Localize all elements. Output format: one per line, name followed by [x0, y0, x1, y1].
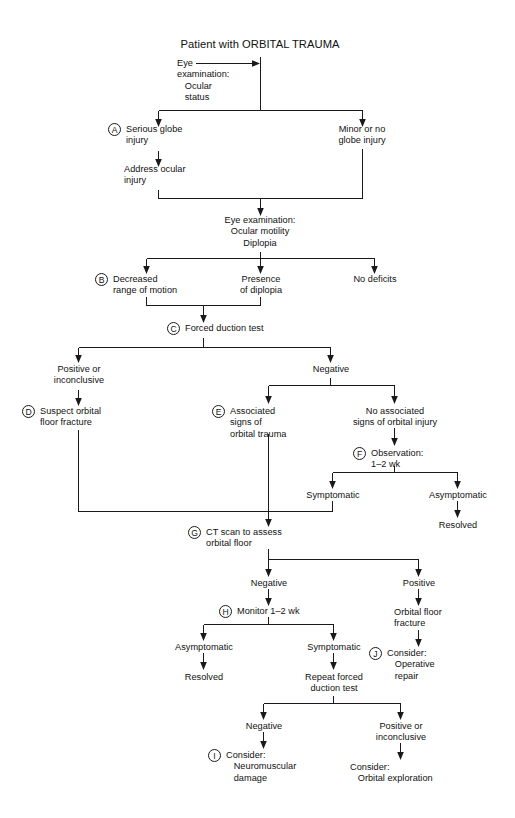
node-ct-scan-to-assess-orbital-floor: CT scan to assess orbital floor — [206, 527, 282, 550]
node-eye-examination-1: Eye examination: Ocular status — [177, 58, 229, 104]
node-serious-globe-injury: Serious globe injury — [126, 124, 182, 147]
flowchart-canvas: Patient with ORBITAL TRAUMA Eye examinat… — [0, 0, 515, 818]
node-repeat-forced-duction-test: Repeat forced duction test — [305, 672, 363, 695]
key-letter-j: J — [369, 647, 382, 660]
node-decreased-range-of-motion: Decreased range of motion — [113, 274, 177, 297]
node-negative-1: Negative — [313, 364, 349, 375]
node-positive-or-inconclusive-3: Positive or inconclusive — [376, 721, 426, 744]
node-asymptomatic-1: Asymptomatic — [429, 490, 487, 501]
key-letter-g: G — [188, 526, 201, 539]
node-asymptomatic-2: Asymptomatic — [175, 642, 233, 653]
key-letter-d: D — [22, 405, 35, 418]
key-letter-c: C — [167, 322, 180, 335]
key-letter-i: I — [208, 749, 221, 762]
node-observation: Observation: 1–2 wk — [371, 448, 423, 471]
node-suspect-orbital-floor-fracture: Suspect orbital floor fracture — [40, 406, 101, 429]
node-no-associated-signs-of-orbital-injury: No associated signs of orbital injury — [353, 406, 437, 429]
node-no-deficits: No deficits — [353, 274, 396, 285]
node-monitor-1-2-wk: Monitor 1–2 wk — [237, 606, 300, 617]
node-resolved-2: Resolved — [185, 672, 223, 683]
node-eye-examination-2: Eye examination: Ocular motility Diplopi… — [225, 215, 296, 249]
node-consider-neuromuscular-damage: Consider: Neuromuscular damage — [226, 750, 296, 784]
node-negative-2: Negative — [251, 578, 287, 589]
key-letter-f: F — [353, 447, 366, 460]
node-forced-duction-test: Forced duction test — [185, 323, 264, 334]
page-title: Patient with ORBITAL TRAUMA — [180, 38, 339, 51]
node-associated-signs-of-orbital-trauma: Associated signs of orbital trauma — [230, 406, 286, 440]
node-resolved-1: Resolved — [439, 520, 477, 531]
node-consider-operative-repair: Consider: Operative repair — [387, 648, 435, 682]
node-orbital-floor-fracture: Orbital floor fracture — [394, 607, 442, 630]
node-address-ocular-injury: Address ocular injury — [124, 164, 186, 187]
key-letter-a: A — [108, 123, 121, 136]
node-minor-or-no-globe-injury: Minor or no globe injury — [338, 124, 385, 147]
node-negative-3: Negative — [246, 721, 282, 732]
node-consider-orbital-exploration: Consider: Orbital exploration — [350, 762, 433, 785]
key-letter-e: E — [212, 405, 225, 418]
node-symptomatic-2: Symptomatic — [307, 642, 360, 653]
node-presence-of-diplopia: Presence of diplopia — [240, 274, 282, 297]
key-letter-b: B — [95, 273, 108, 286]
node-symptomatic-1: Symptomatic — [306, 490, 359, 501]
node-positive-2: Positive — [403, 578, 435, 589]
node-positive-or-inconclusive-1: Positive or inconclusive — [54, 364, 104, 387]
key-letter-h: H — [219, 605, 232, 618]
